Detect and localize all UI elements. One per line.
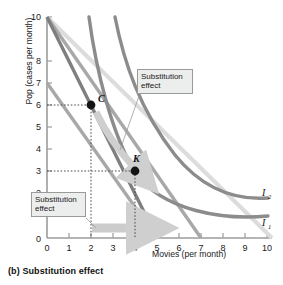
y-tick-0: 0: [36, 234, 41, 244]
x-tick-3: 3: [110, 243, 115, 253]
curve-label-i2-text: I: [261, 187, 266, 198]
figure-caption: (b) Substitution effect: [8, 266, 103, 276]
y-axis-label: Pop (cases per month): [24, 6, 34, 116]
x-tick-0: 0: [44, 243, 49, 253]
figure-substitution-effect: 10 8 7 6 5 4 3 2 0 0 1 2 3 4 5 6 7 8 9 1…: [0, 0, 283, 285]
curve-label-i1-text: I: [261, 217, 266, 228]
data-point-label-c: C: [98, 93, 105, 104]
annotation-substitution-effect-bottom: Substitution effect: [31, 192, 86, 217]
y-tick-8: 8: [36, 56, 41, 66]
leader-line-bottom-annotation: [86, 218, 96, 228]
y-tick-6: 6: [36, 100, 41, 110]
x-tick-9: 9: [242, 243, 247, 253]
curve-label-i2-sub: 2: [268, 193, 272, 200]
annotation-bottom-line2: effect: [35, 204, 82, 213]
y-tick-3: 3: [36, 166, 41, 176]
y-tick-4: 4: [36, 144, 41, 154]
annotation-top-line2: effect: [141, 81, 189, 90]
annotation-top-line1: Substitution: [141, 72, 189, 81]
data-point-label-k: K: [132, 153, 141, 164]
x-tick-1: 1: [66, 243, 71, 253]
curve-label-i1-sub: 1: [268, 223, 271, 230]
annotation-bottom-line1: Substitution: [35, 195, 82, 204]
y-tick-7: 7: [36, 78, 41, 88]
data-point-c[interactable]: [87, 101, 96, 110]
x-tick-4: 4: [132, 243, 137, 253]
chart-canvas: 10 8 7 6 5 4 3 2 0 0 1 2 3 4 5 6 7 8 9 1…: [0, 0, 283, 285]
data-point-k[interactable]: [131, 167, 140, 176]
annotation-substitution-effect-top: Substitution effect: [137, 69, 193, 94]
x-tick-2: 2: [88, 243, 93, 253]
y-tick-5: 5: [36, 122, 41, 132]
x-axis-label: Movies (per month): [152, 249, 226, 259]
x-tick-10: 10: [262, 243, 272, 253]
